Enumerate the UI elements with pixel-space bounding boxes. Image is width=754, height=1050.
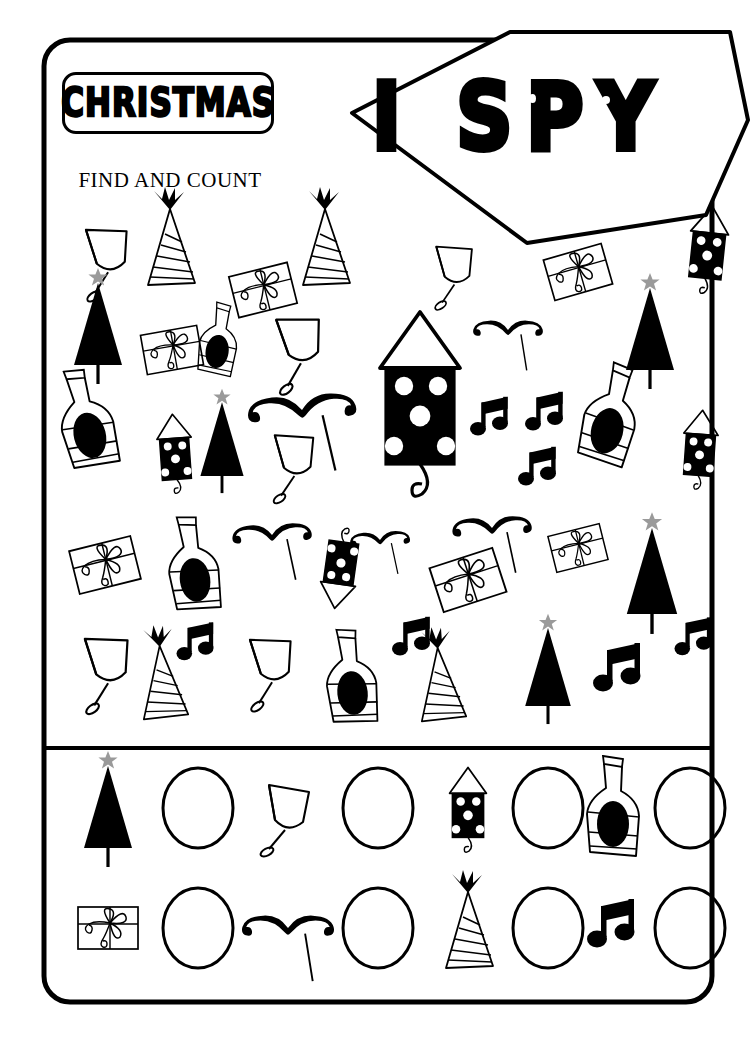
count-circle-music-note[interactable] — [655, 888, 725, 968]
answer-icon-wine-glass — [259, 785, 309, 858]
count-circle-gift-box[interactable] — [163, 888, 233, 968]
count-circle-firework-rocket[interactable] — [513, 768, 583, 848]
count-circle-christmas-tree[interactable] — [163, 768, 233, 848]
answer-cell — [242, 888, 413, 981]
count-circle-mustache[interactable] — [343, 888, 413, 968]
answer-icon-party-hat — [446, 870, 493, 968]
count-circle-party-hat[interactable] — [513, 888, 583, 968]
answer-icon-champagne-bottle — [587, 756, 639, 856]
answer-cell — [84, 751, 233, 867]
answer-cell — [587, 888, 725, 968]
answer-cell — [78, 888, 233, 968]
answer-cell — [587, 756, 725, 856]
answer-cell — [450, 768, 583, 853]
answer-icon-firework-rocket — [450, 768, 487, 853]
answer-icon-gift-box — [78, 907, 138, 949]
count-circle-wine-glass[interactable] — [343, 768, 413, 848]
answer-key — [0, 0, 754, 1050]
count-circle-champagne-bottle[interactable] — [655, 768, 725, 848]
answer-cell — [259, 768, 413, 858]
answer-icon-mustache — [242, 916, 334, 982]
answer-icon-music-note — [587, 899, 635, 947]
answer-cell — [446, 870, 583, 968]
worksheet-page: CHRISTMAS FIND AND COUNT I SPY — [0, 0, 754, 1050]
answer-icon-christmas-tree — [84, 751, 132, 867]
